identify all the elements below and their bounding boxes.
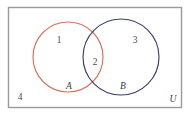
region-label-outside: 4 (18, 92, 23, 102)
venn-diagram-canvas: 1 2 3 4 A B U (0, 0, 190, 117)
set-a-label: A (65, 81, 72, 91)
region-label-intersection: 2 (93, 57, 98, 67)
region-label-a-only: 1 (57, 35, 62, 45)
set-b-label: B (120, 81, 126, 91)
universal-set-label: U (170, 94, 178, 104)
region-label-b-only: 3 (133, 35, 138, 45)
venn-diagram-figure: 1 2 3 4 A B U (0, 0, 190, 117)
